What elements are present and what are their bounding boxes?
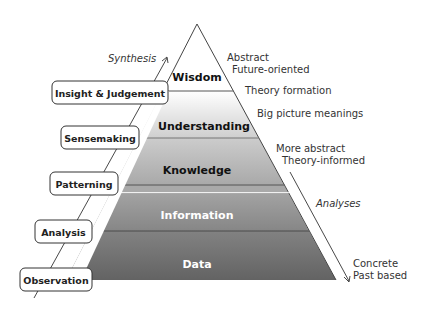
layer-label-data: Data bbox=[182, 258, 211, 271]
desc-future-oriented: Future-oriented bbox=[232, 64, 310, 75]
desc-big-picture: Big picture meanings bbox=[257, 108, 363, 119]
desc-theory-formation: Theory formation bbox=[244, 85, 332, 96]
process-label-analysis: Analysis bbox=[41, 227, 86, 238]
desc-abstract: Abstract bbox=[227, 52, 269, 63]
desc-past-based: Past based bbox=[353, 270, 407, 281]
desc-more-abstract: More abstract bbox=[276, 143, 345, 154]
dikw-pyramid-diagram: Wisdom Understanding Knowledge Informati… bbox=[0, 0, 428, 314]
desc-theory-informed: Theory-informed bbox=[281, 155, 365, 166]
desc-concrete: Concrete bbox=[353, 258, 398, 269]
process-box-sensemaking: Sensemaking bbox=[61, 126, 139, 149]
layer-label-wisdom: Wisdom bbox=[172, 71, 221, 84]
process-box-insight: Insight & Judgement bbox=[52, 81, 168, 104]
process-box-patterning: Patterning bbox=[50, 172, 118, 195]
analyses-label: Analyses bbox=[315, 198, 361, 209]
process-label-sensemaking: Sensemaking bbox=[64, 133, 136, 144]
process-label-patterning: Patterning bbox=[56, 179, 113, 190]
layer-data bbox=[66, 231, 336, 280]
process-box-observation: Observation bbox=[20, 268, 92, 291]
process-label-observation: Observation bbox=[23, 275, 89, 286]
layer-label-information: Information bbox=[161, 209, 234, 222]
synthesis-label: Synthesis bbox=[108, 53, 156, 64]
layer-label-understanding: Understanding bbox=[158, 120, 250, 133]
process-box-analysis: Analysis bbox=[35, 220, 92, 243]
layer-label-knowledge: Knowledge bbox=[163, 164, 232, 177]
process-label-insight: Insight & Judgement bbox=[55, 88, 166, 99]
